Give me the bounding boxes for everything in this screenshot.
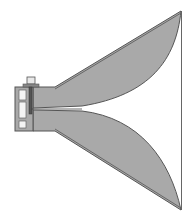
feed-probe [29,87,32,114]
cavity-slot-upper [19,90,26,100]
ridged-horn-antenna-diagram [0,0,195,220]
cavity-slot-lower [19,121,26,128]
upper-ridge [33,11,181,108]
connector-flange [23,84,39,87]
lower-ridge [33,110,181,210]
cavity-slot-middle [19,102,26,118]
coaxial-connector [27,77,35,84]
